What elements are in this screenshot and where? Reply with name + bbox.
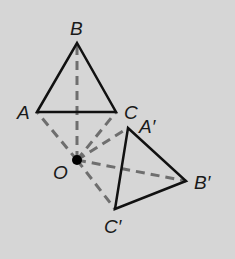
label-C: C	[124, 102, 138, 123]
center-point-O	[72, 155, 82, 165]
label-B: B	[70, 18, 83, 39]
label-C-prime: C′	[104, 216, 123, 237]
label-A: A	[16, 102, 30, 123]
label-B-prime: B′	[194, 172, 212, 193]
label-O: O	[53, 162, 68, 183]
label-A-prime: A′	[138, 116, 157, 137]
rotation-diagram: B A C A′ O B′ C′	[0, 0, 235, 259]
